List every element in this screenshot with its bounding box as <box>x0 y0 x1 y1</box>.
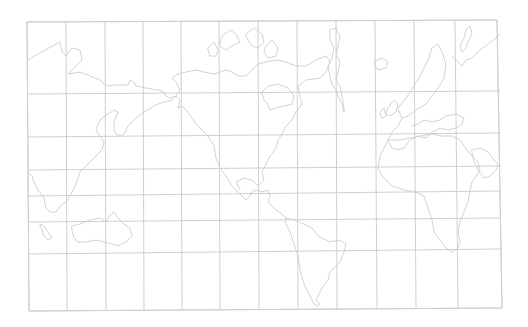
coastline-novaya-zemlya <box>460 26 472 52</box>
coastline-sumatra-java <box>40 224 52 240</box>
coastline-arctic-islands <box>208 28 278 58</box>
coastline-arabia <box>472 148 498 178</box>
coastlines <box>28 26 500 306</box>
coastline-canada-east-and-us-east <box>258 56 330 186</box>
meridian-line-4 <box>181 22 182 310</box>
parallel-line-1 <box>27 91 500 94</box>
coastline-iceland <box>374 58 388 70</box>
coastline-gulf-of-mexico <box>236 178 258 190</box>
meridian-line-7 <box>297 21 298 309</box>
coastline-hudson-bay <box>262 84 294 110</box>
coastline-british-isles <box>380 100 398 118</box>
meridian-line-3 <box>143 22 144 310</box>
coastline-scandinavia <box>398 44 446 118</box>
meridian-line-1 <box>66 22 67 311</box>
parallel-line-6 <box>29 249 502 254</box>
coastline-australia <box>72 212 132 246</box>
parallel-line-4 <box>28 191 501 196</box>
map-frame <box>27 20 502 311</box>
coastline-kamchatka-and-east-asia <box>80 96 176 172</box>
coastline-russia-arctic-coast <box>452 34 500 66</box>
graticule-grid <box>27 20 502 311</box>
world-map <box>0 0 528 327</box>
meridian-line-10 <box>414 20 416 308</box>
meridian-line-2 <box>105 22 106 310</box>
meridian-line-11 <box>455 20 458 308</box>
coastline-southeast-asia <box>28 172 80 212</box>
coastline-siberia-east-coast <box>28 42 176 98</box>
coastline-africa <box>378 134 480 252</box>
coastline-alaska-and-north-america-west <box>172 56 326 96</box>
coastline-europe-coast <box>388 114 464 150</box>
